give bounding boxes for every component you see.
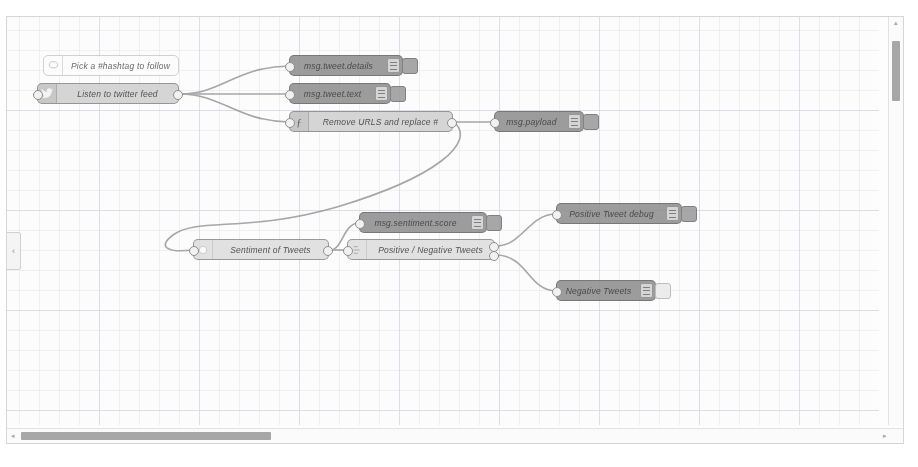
- debug-toggle-button[interactable]: [681, 206, 697, 222]
- node-label: msg.sentiment.score: [360, 218, 471, 228]
- wire-twitter-to-tweet-details: [180, 66, 289, 94]
- node-label: Sentiment of Tweets: [213, 245, 328, 255]
- node-label: msg.payload: [495, 117, 568, 127]
- debug-icon: [375, 86, 388, 101]
- node-label: Pick a #hashtag to follow: [63, 61, 178, 71]
- wire-switch-to-positive: [496, 214, 556, 246]
- debug-toggle-button[interactable]: [390, 86, 406, 102]
- flow-canvas[interactable]: Pick a #hashtag to follow Listen to twit…: [7, 17, 879, 425]
- node-label: Positive Tweet debug: [557, 209, 666, 219]
- wire-switch-to-negative: [496, 255, 556, 291]
- node-function-remove-urls[interactable]: ƒ Remove URLS and replace #: [289, 111, 453, 132]
- debug-icon: [387, 58, 400, 73]
- node-twitter-in[interactable]: Listen to twitter feed: [37, 83, 179, 104]
- output-port[interactable]: [323, 246, 333, 256]
- input-port[interactable]: [285, 118, 295, 128]
- scrollbar-corner: [889, 429, 903, 443]
- node-label: Negative Tweets: [557, 286, 640, 296]
- flow-editor: Pick a #hashtag to follow Listen to twit…: [6, 16, 904, 444]
- vertical-scroll-thumb[interactable]: [892, 41, 900, 101]
- debug-icon: [568, 114, 581, 129]
- node-debug-sentiment-score[interactable]: msg.sentiment.score: [359, 212, 487, 233]
- input-port[interactable]: [355, 219, 365, 229]
- output-port[interactable]: [447, 118, 457, 128]
- input-port[interactable]: [285, 62, 295, 72]
- comment-icon: [44, 56, 63, 75]
- debug-icon: [640, 283, 653, 298]
- debug-toggle-button[interactable]: [402, 58, 418, 74]
- node-label: Listen to twitter feed: [57, 89, 178, 99]
- vertical-scrollbar[interactable]: ▴: [888, 17, 903, 425]
- scroll-left-arrow-icon[interactable]: ◂: [7, 429, 19, 443]
- node-debug-negative-tweets[interactable]: Negative Tweets: [556, 280, 656, 301]
- wire-twitter-to-function: [180, 94, 289, 122]
- node-label: Positive / Negative Tweets: [367, 245, 494, 255]
- node-comment-hashtag[interactable]: Pick a #hashtag to follow: [43, 55, 179, 76]
- input-port[interactable]: [343, 246, 353, 256]
- debug-toggle-button[interactable]: [655, 283, 671, 299]
- node-label: msg.tweet.text: [290, 89, 375, 99]
- node-switch-positive-negative[interactable]: Positive / Negative Tweets: [347, 239, 495, 260]
- palette-collapse-handle[interactable]: ‹: [7, 232, 21, 270]
- node-debug-payload[interactable]: msg.payload: [494, 111, 584, 132]
- input-port[interactable]: [189, 246, 199, 256]
- output-port-2[interactable]: [489, 251, 499, 261]
- input-port[interactable]: [285, 90, 295, 100]
- input-port[interactable]: [33, 90, 43, 100]
- horizontal-scroll-thumb[interactable]: [21, 432, 271, 440]
- debug-toggle-button[interactable]: [583, 114, 599, 130]
- debug-toggle-button[interactable]: [486, 215, 502, 231]
- debug-icon: [471, 215, 484, 230]
- horizontal-scrollbar[interactable]: ◂ ▸: [7, 428, 904, 443]
- input-port[interactable]: [552, 210, 562, 220]
- node-sentiment-of-tweets[interactable]: Sentiment of Tweets: [193, 239, 329, 260]
- chevron-left-icon: ‹: [12, 246, 15, 256]
- node-debug-tweet-text[interactable]: msg.tweet.text: [289, 83, 391, 104]
- output-port[interactable]: [173, 90, 183, 100]
- node-label: msg.tweet.details: [290, 61, 387, 71]
- scroll-up-arrow-icon[interactable]: ▴: [889, 17, 903, 29]
- input-port[interactable]: [552, 287, 562, 297]
- node-debug-positive-tweet[interactable]: Positive Tweet debug: [556, 203, 682, 224]
- node-label: Remove URLS and replace #: [309, 117, 452, 127]
- node-debug-tweet-details[interactable]: msg.tweet.details: [289, 55, 403, 76]
- input-port[interactable]: [490, 118, 500, 128]
- debug-icon: [666, 206, 679, 221]
